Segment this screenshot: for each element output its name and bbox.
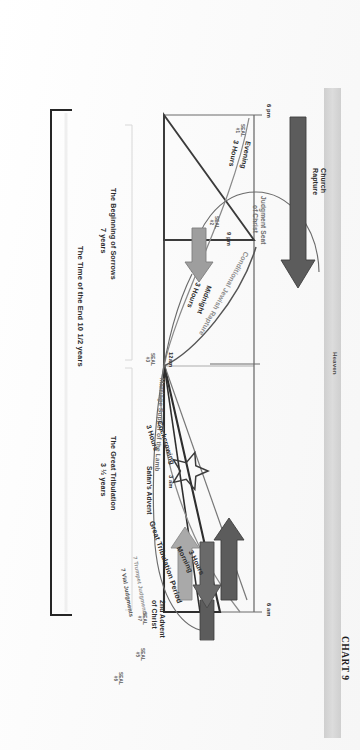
seal-2-line2: #2 xyxy=(209,220,214,226)
seal-5: SEAL #5 xyxy=(134,648,144,661)
second-advent-label-line1: 2nd Advent xyxy=(158,600,166,638)
time-marker-6am: 6 am xyxy=(266,603,272,617)
seal-1-line1: SEAL xyxy=(240,124,245,137)
time-marker-6pm: 6 pm xyxy=(266,104,272,118)
seal-6-line2: #6 xyxy=(113,676,118,682)
diagram-stage: CHART 9 Heaven Church Rapture Judgment S… xyxy=(0,0,360,750)
seal-4-line2: #4 xyxy=(224,572,229,578)
judgment-seat-label-line1: Judgment Seat xyxy=(260,196,267,245)
seal-5-line1: SEAL xyxy=(140,648,145,661)
bracket-time-of-end-label: The Time of the End 10 1/2 years xyxy=(76,246,85,367)
seal-7: SEAL #7 xyxy=(136,612,146,625)
diagram-vector-layer xyxy=(0,0,360,750)
seal-7-line1: SEAL xyxy=(142,612,147,625)
seal-1: SEAL #1 xyxy=(234,124,244,137)
bracket-sorrows-shape xyxy=(125,125,132,360)
bracket-tribulation-line1: The Great Tribulation xyxy=(109,436,117,510)
satans-advent-star xyxy=(173,453,208,490)
seal-3-line1: SEAL xyxy=(150,353,155,366)
seal-6-line1: SEAL xyxy=(118,672,123,685)
seal-6: SEAL #6 xyxy=(112,672,122,685)
chart-page: CHART 9 Heaven Church Rapture Judgment S… xyxy=(0,0,360,750)
time-marker-12am: 12am xyxy=(168,352,174,367)
bracket-sorrows-line2: 7 years xyxy=(99,228,107,253)
church-rapture-label-line1: Church xyxy=(319,168,327,193)
time-marker-3am: 3 am xyxy=(168,475,174,489)
seal-3-line2: #3 xyxy=(145,357,150,363)
judgment-seat-label-line2: of Christ xyxy=(252,205,259,233)
seal-4-line1: SEAL xyxy=(229,568,234,581)
heaven-band-label: Heaven xyxy=(331,352,338,375)
seal-7-line2: #7 xyxy=(137,616,142,622)
seal-3: SEAL #3 xyxy=(144,353,154,366)
second-advent-label-line2: of Christ xyxy=(150,600,158,629)
seal-1-line2: #1 xyxy=(235,128,240,134)
chart-heading: CHART 9 xyxy=(340,636,350,680)
seal-5-line2: #5 xyxy=(135,652,140,658)
bracket-sorrows-line1: The Beginning of Sorrows xyxy=(109,188,117,280)
satans-advent-label: Satan's Advent xyxy=(146,466,153,515)
bracket-tribulation-line2: 3 ½ years xyxy=(99,463,107,497)
church-rapture-label-line2: Rapture xyxy=(311,168,319,195)
seal-4: SEAL #4 xyxy=(223,568,233,581)
seal-2: SEAL #2 xyxy=(208,216,218,229)
conditional-rapture-arrow xyxy=(185,228,213,282)
time-marker-9pm: 9 pm xyxy=(226,232,232,246)
bracket-time-of-end-shape xyxy=(51,110,72,615)
seal-2-line1: SEAL xyxy=(214,216,219,229)
